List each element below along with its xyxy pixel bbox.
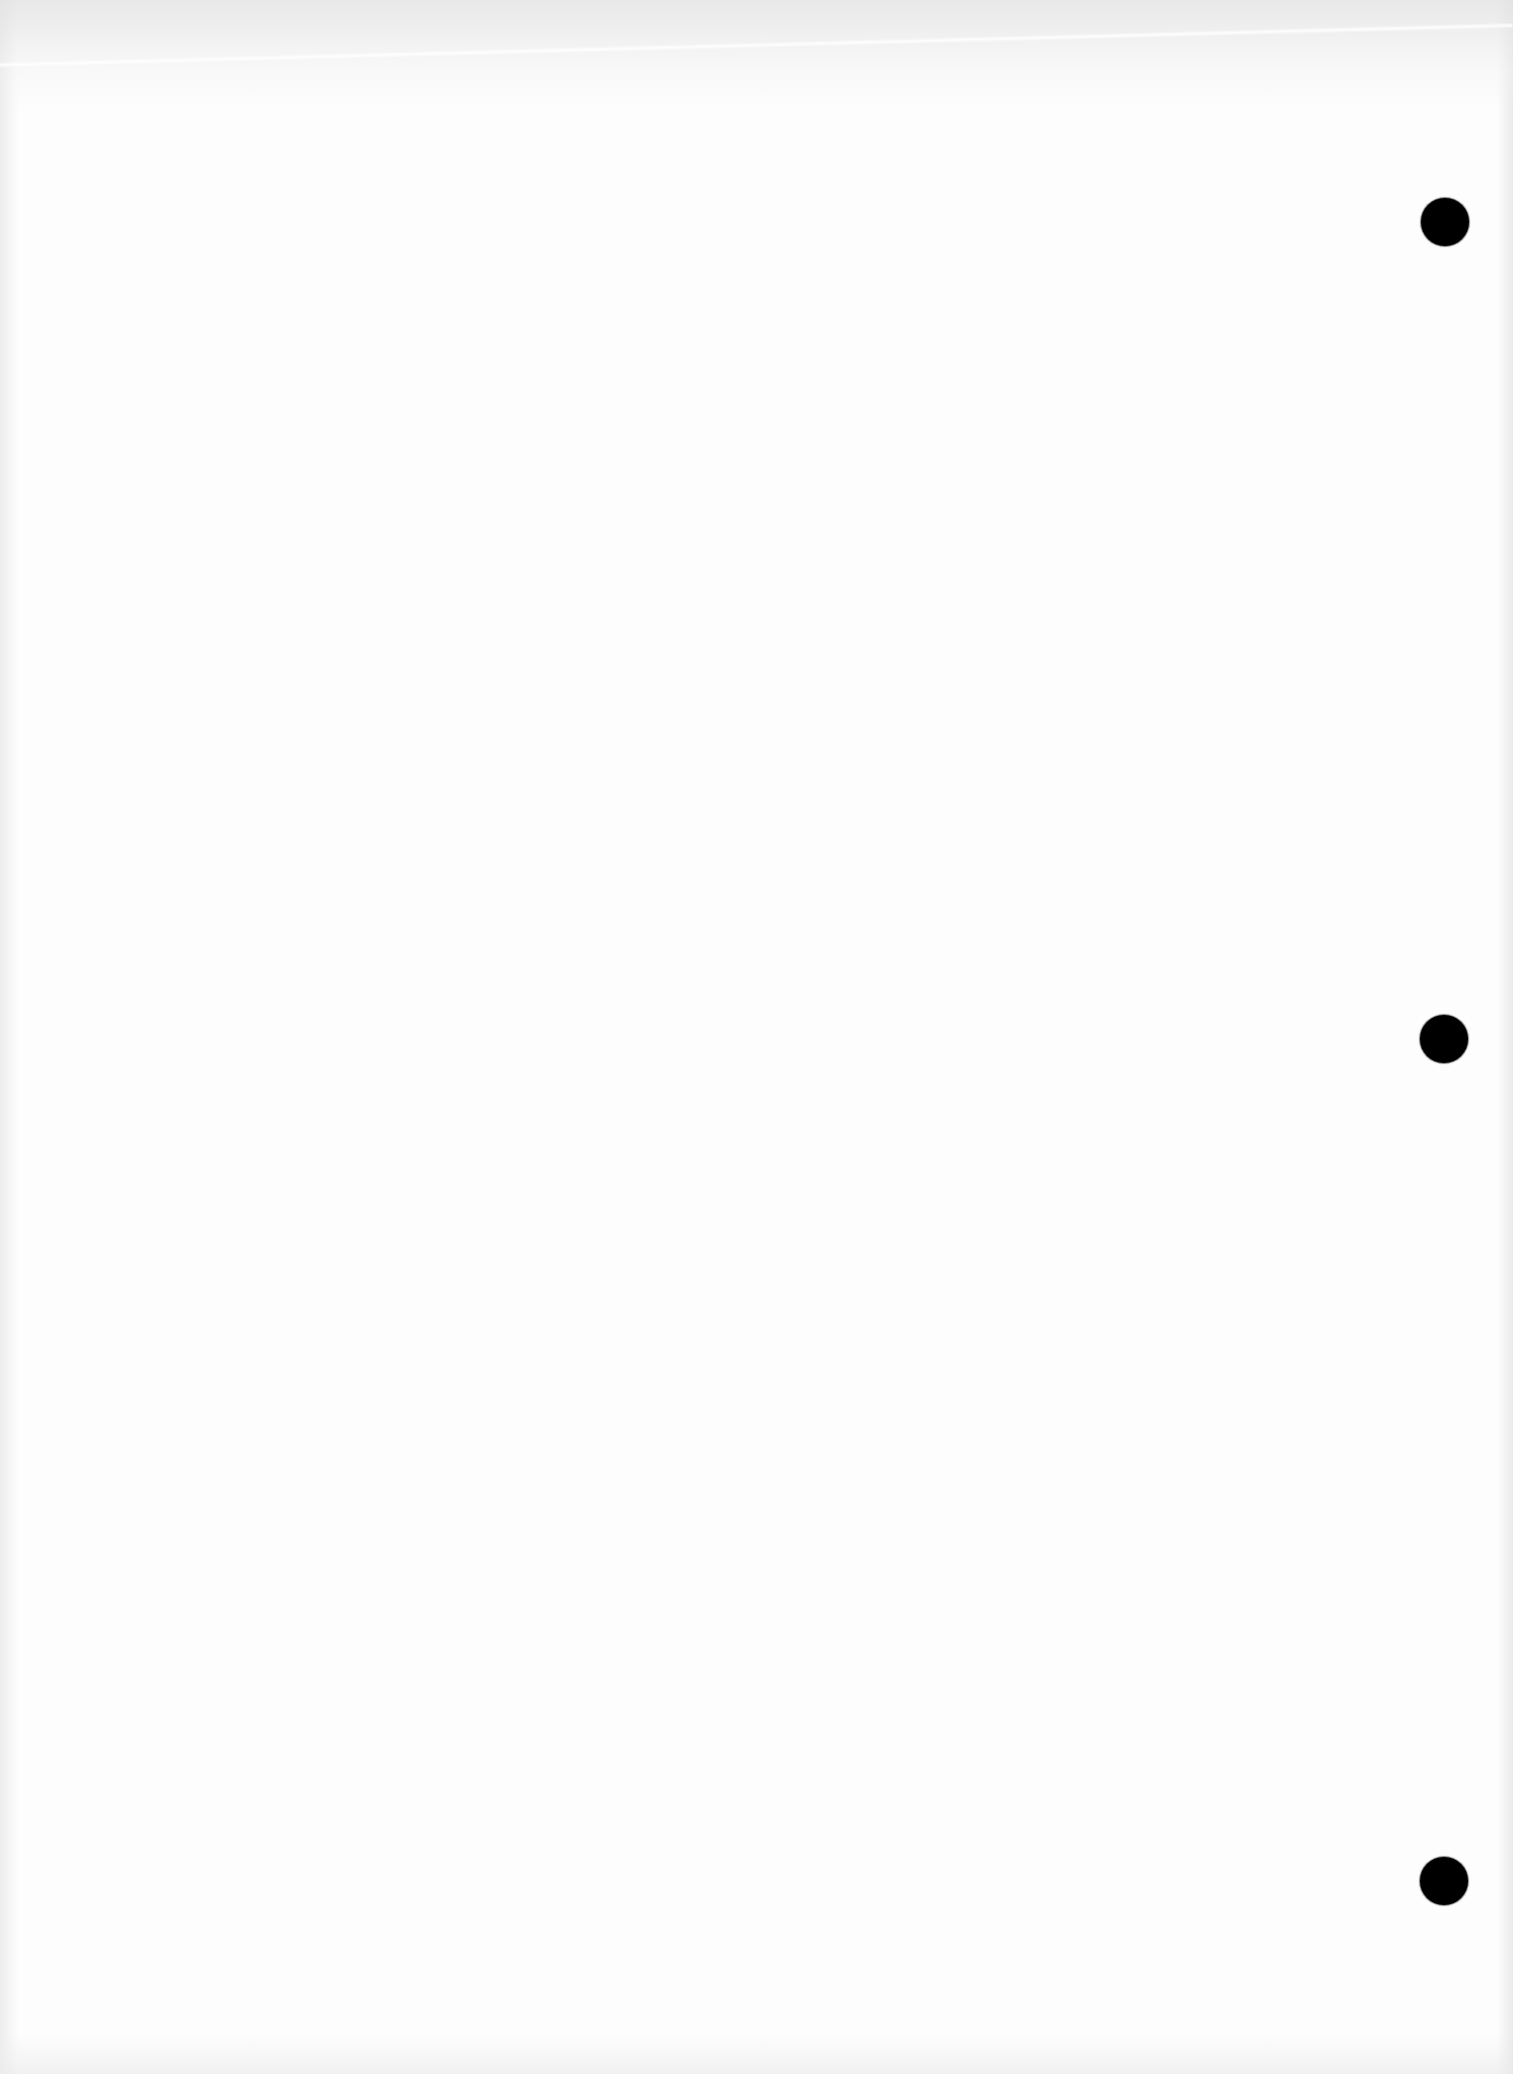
scanned-blank-page — [0, 0, 1513, 2074]
punch-hole-middle — [1420, 1015, 1468, 1063]
punch-hole-top — [1421, 198, 1469, 246]
scan-streak — [0, 22, 1513, 68]
punch-hole-bottom — [1420, 1857, 1468, 1905]
page-text — [0, 0, 1, 1]
